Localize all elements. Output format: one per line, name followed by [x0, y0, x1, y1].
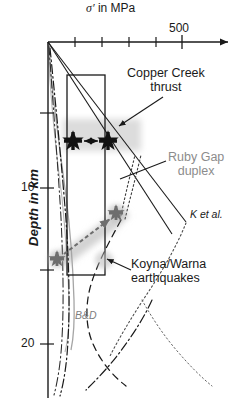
y-tick-label-20: 20 [21, 337, 34, 350]
x-tick-label-500: 500 [169, 22, 189, 35]
sigma-prime-symbol: σ′ [86, 1, 95, 15]
koyna-line2: earthquakes [131, 271, 206, 285]
annotation-copper-creek-thrust: Copper Creek thrust [127, 66, 205, 94]
y-axis-title: Depth in km [26, 153, 41, 263]
x-axis-title: σ′ in MPa [86, 2, 135, 15]
annotation-b-and-d: B&D [75, 310, 97, 322]
annotation-ruby-gap-duplex: Ruby Gap duplex [168, 150, 224, 178]
right-dotted-curve [142, 300, 212, 386]
annotation-k-et-al: K et al. [190, 209, 223, 221]
ruby-gap-line1: Ruby Gap [168, 150, 224, 164]
ruby-gap-line2: duplex [168, 164, 224, 178]
stress-depth-figure: σ′ in MPa 500 10 20 Depth in km Copper C… [0, 0, 237, 408]
copper-creek-line2: thrust [127, 80, 205, 94]
k-et-al-dotted-limb [110, 223, 186, 356]
copper-creek-line1: Copper Creek [127, 66, 205, 80]
y-axis-ticks [40, 113, 54, 344]
annotation-koyna-warna-earthquakes: Koyna/Warna earthquakes [131, 257, 206, 285]
x-axis-title-rest: in MPa [95, 1, 136, 15]
koyna-line1: Koyna/Warna [131, 257, 206, 271]
